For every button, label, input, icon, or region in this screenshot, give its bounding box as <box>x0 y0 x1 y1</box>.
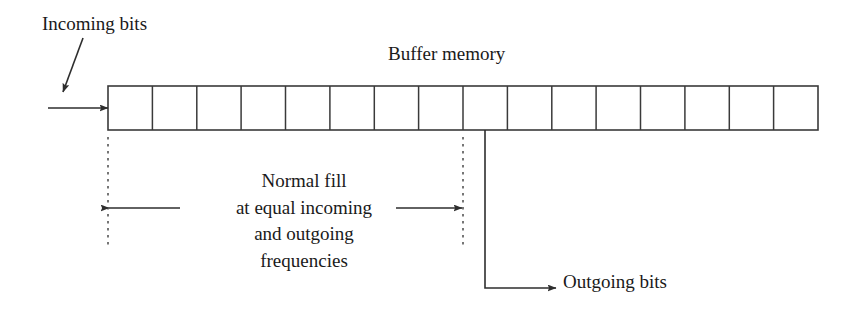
incoming-bits-pointer-arrow <box>63 38 83 92</box>
outgoing-bits-label: Outgoing bits <box>563 272 667 291</box>
normal-fill-description: Normal fill at equal incoming and outgoi… <box>205 168 403 274</box>
buffer-memory-cells <box>108 86 818 130</box>
incoming-bits-label: Incoming bits <box>42 14 147 33</box>
fill-description-line-1: Normal fill <box>205 168 403 195</box>
fill-description-line-2: at equal incoming <box>205 195 403 222</box>
buffer-memory-diagram: Incoming bits Buffer memory Normal fill … <box>0 0 857 310</box>
outgoing-bits-connector <box>485 130 556 288</box>
buffer-memory-title: Buffer memory <box>388 44 505 63</box>
fill-description-line-4: frequencies <box>205 248 403 275</box>
fill-description-line-3: and outgoing <box>205 221 403 248</box>
